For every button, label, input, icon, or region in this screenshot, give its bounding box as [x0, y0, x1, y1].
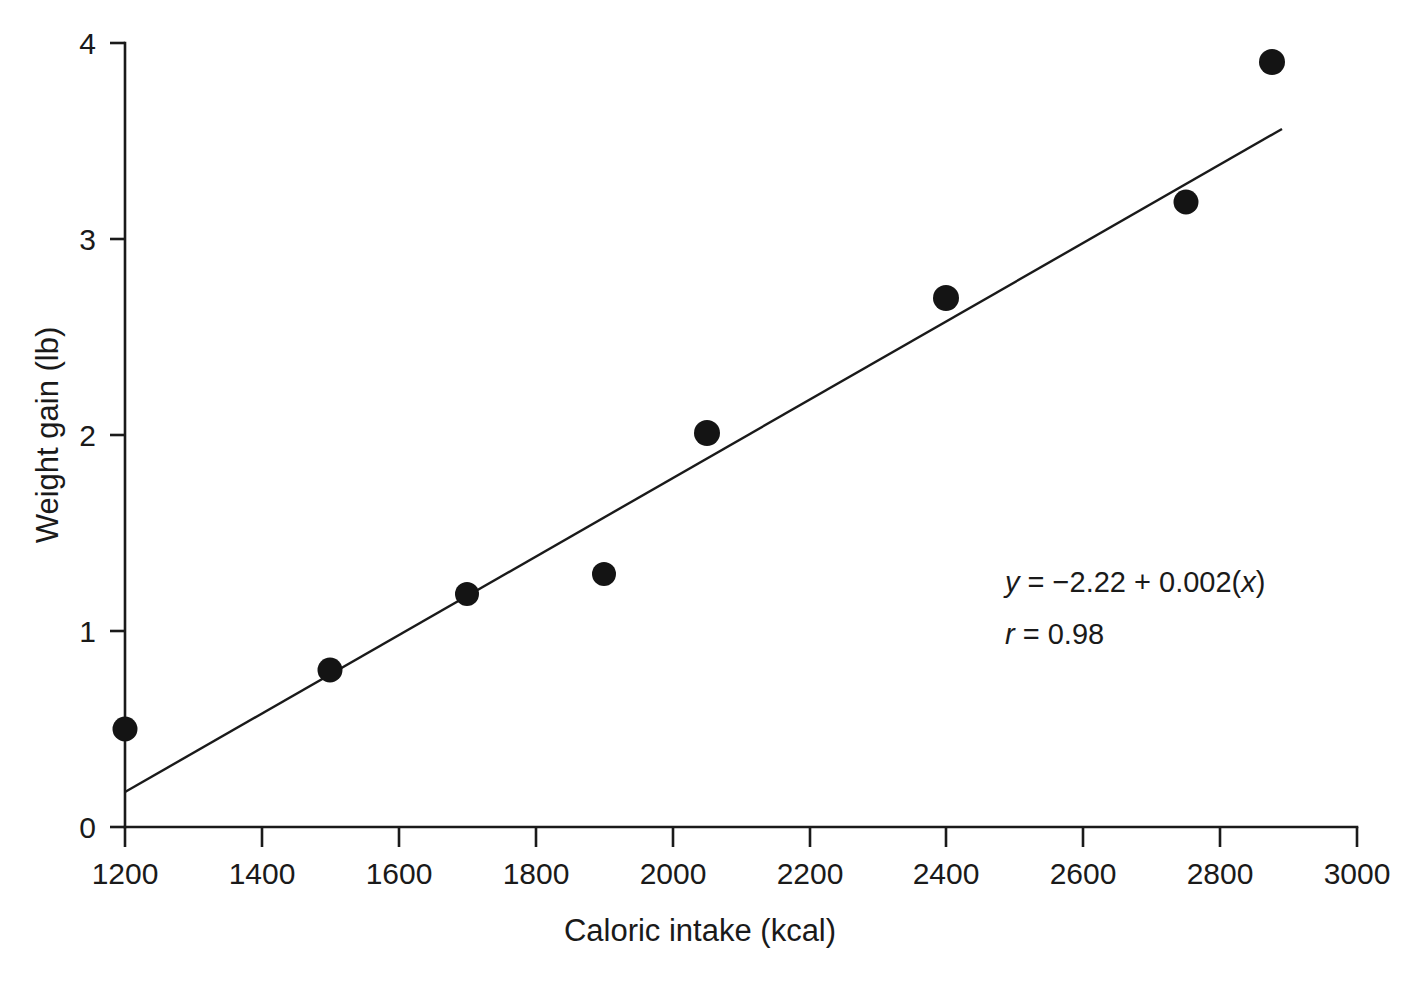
equation-close-paren: ) — [1256, 566, 1266, 598]
y-tick-label-4: 4 — [79, 27, 96, 60]
x-tick-label-2400: 2400 — [913, 857, 980, 890]
correlation-value: = 0.98 — [1015, 618, 1105, 650]
x-tick-label-1200: 1200 — [92, 857, 159, 890]
data-point — [113, 717, 138, 742]
x-tick-label-2200: 2200 — [777, 857, 844, 890]
x-axis-tick-labels: 1200 1400 1600 1800 2000 2200 2400 2600 … — [92, 857, 1391, 890]
y-axis-tick-labels: 0 1 2 3 4 — [79, 27, 96, 844]
x-tick-label-1400: 1400 — [229, 857, 296, 890]
regression-line — [125, 129, 1282, 792]
data-point — [933, 285, 959, 311]
regression-equation-annotation: y = −2.22 + 0.002(x) — [1003, 566, 1265, 598]
y-tick-label-3: 3 — [79, 223, 96, 256]
data-point — [318, 658, 343, 683]
data-point — [455, 582, 479, 606]
x-tick-label-1600: 1600 — [366, 857, 433, 890]
equation-equals: = — [1020, 566, 1053, 598]
chart-canvas: 0 1 2 3 4 1200 1400 1600 1800 2000 220 — [0, 0, 1413, 983]
equation-slope: 0.002( — [1159, 566, 1242, 598]
x-tick-label-2000: 2000 — [640, 857, 707, 890]
equation-y-symbol: y — [1003, 566, 1021, 598]
equation-intercept: −2.22 — [1053, 566, 1126, 598]
y-tick-label-2: 2 — [79, 419, 96, 452]
x-axis-title: Caloric intake (kcal) — [564, 913, 836, 948]
correlation-annotation: r = 0.98 — [1005, 618, 1104, 650]
x-tick-label-2600: 2600 — [1050, 857, 1117, 890]
data-point — [592, 562, 616, 586]
x-axis-ticks — [125, 827, 1357, 847]
y-axis-ticks — [110, 43, 125, 827]
y-tick-label-1: 1 — [79, 615, 96, 648]
scatter-plot-figure: 0 1 2 3 4 1200 1400 1600 1800 2000 220 — [0, 0, 1413, 983]
y-axis-title: Weight gain (lb) — [30, 327, 65, 544]
equation-x-symbol: x — [1239, 566, 1257, 598]
x-tick-label-2800: 2800 — [1187, 857, 1254, 890]
x-tick-label-1800: 1800 — [503, 857, 570, 890]
x-tick-label-3000: 3000 — [1324, 857, 1391, 890]
y-tick-label-0: 0 — [79, 811, 96, 844]
data-point — [694, 420, 720, 446]
data-point — [1259, 49, 1285, 75]
data-point — [1174, 190, 1199, 215]
data-point-series — [113, 49, 1286, 742]
equation-plus: + — [1126, 566, 1159, 598]
